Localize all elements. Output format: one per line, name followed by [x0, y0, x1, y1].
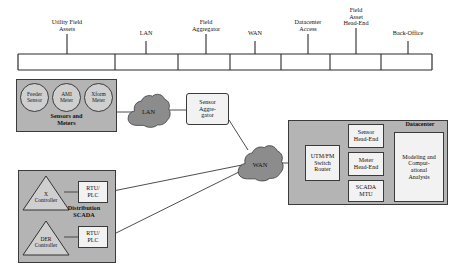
- datacenter-label: Datacenter: [394, 121, 446, 128]
- node-scada-mtu[interactable]: SCADA MTU: [348, 180, 384, 202]
- node-utm-fm-switch-router[interactable]: UTM/FM Switch Router: [305, 145, 340, 181]
- node-meter-head-end[interactable]: Meter Head-End: [348, 152, 384, 176]
- distribution-scada-label: Distribution SCADA: [52, 205, 116, 219]
- architecture-diagram: Utility Field Assets LAN Field Aggregato…: [0, 0, 452, 276]
- node-modeling-computational-analysis[interactable]: Modeling and Comput- ational Analysis: [394, 132, 444, 202]
- node-sensor-head-end[interactable]: Sensor Head-End: [348, 124, 384, 148]
